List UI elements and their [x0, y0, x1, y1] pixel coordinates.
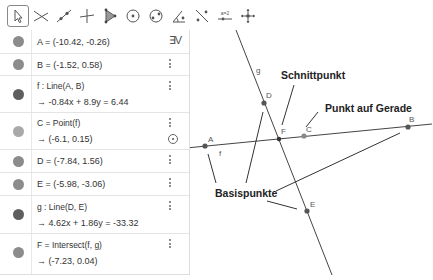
circle-three-points-icon: [147, 7, 165, 25]
algebra-row-A[interactable]: A = (-10.42, -0.26) ∃V: [0, 30, 189, 54]
svg-text:A: A: [208, 135, 214, 144]
polygon-icon: [101, 7, 119, 25]
callout-line-base-D: [246, 112, 263, 183]
more-vertical-icon: [169, 155, 173, 164]
row-divider: [31, 54, 32, 75]
row-divider: [31, 234, 32, 274]
definition-text[interactable]: F = Intersect(f, g): [37, 240, 102, 250]
point-A[interactable]: A: [202, 135, 214, 149]
angle-icon: [170, 7, 188, 25]
algebra-row-D[interactable]: D = (-7.84, 1.56): [0, 150, 189, 173]
line-tool-button[interactable]: [53, 5, 75, 27]
row-menu-button[interactable]: [169, 201, 173, 210]
svg-text:a=2: a=2: [221, 10, 230, 16]
visibility-toggle[interactable]: [13, 156, 24, 167]
perpendicular-line-icon: [78, 7, 96, 25]
algebra-row-g[interactable]: g : Line(D, E) → 4.62x + 1.86y = -33.32: [0, 196, 189, 234]
reflect-line-icon: [193, 7, 211, 25]
sort-icon[interactable]: ∃V: [169, 34, 181, 47]
line-g[interactable]: [236, 30, 332, 275]
circle-center-icon: [124, 7, 142, 25]
visibility-toggle[interactable]: [13, 247, 24, 258]
visibility-toggle[interactable]: [13, 126, 24, 137]
algebra-row-f[interactable]: f : Line(A, B) → -0.84x + 8.9y = 6.44: [0, 76, 189, 113]
more-vertical-icon: [169, 178, 173, 187]
more-vertical-icon: [169, 201, 173, 210]
slider-icon: a=2: [216, 7, 234, 25]
definition-text[interactable]: f : Line(A, B): [37, 81, 84, 91]
definition-text[interactable]: D = (-7.84, 1.56): [37, 156, 103, 166]
row-divider: [31, 30, 32, 53]
value-text: → (-7.23, 0.04): [37, 256, 98, 266]
point-E[interactable]: E: [304, 200, 315, 214]
algebra-row-F[interactable]: F = Intersect(f, g) → (-7.23, 0.04): [0, 234, 189, 274]
line-through-points-icon: [55, 7, 73, 25]
cursor-arrow-icon: [9, 7, 27, 25]
row-menu-button[interactable]: [169, 81, 173, 90]
intersect-lines-icon: [32, 7, 50, 25]
svg-text:F: F: [281, 127, 286, 136]
row-divider: [31, 150, 32, 172]
definition-text[interactable]: B = (-1.52, 0.58): [37, 60, 102, 70]
animation-play-icon[interactable]: [168, 134, 178, 144]
algebra-row-C[interactable]: C = Point(f) → (-6.1, 0.15): [0, 113, 189, 150]
polygon-tool-button[interactable]: [99, 5, 121, 27]
conic-tool-button[interactable]: [145, 5, 167, 27]
row-menu-button[interactable]: [169, 178, 173, 187]
graphics-view[interactable]: A B C D E F g f Schnittpunkt Punkt auf G…: [190, 30, 433, 280]
row-divider: [31, 196, 32, 233]
more-vertical-icon: [169, 59, 173, 68]
row-divider: [31, 173, 32, 195]
perpendicular-tool-button[interactable]: [76, 5, 98, 27]
reflect-tool-button[interactable]: [191, 5, 213, 27]
callout-line-base-A: [208, 154, 216, 183]
toolbar: a=2: [0, 0, 433, 30]
definition-text[interactable]: E = (-5.98, -3.06): [37, 179, 105, 189]
row-menu-button[interactable]: [169, 118, 173, 127]
line-g-label: g: [256, 66, 260, 75]
move-view-tool-button[interactable]: [237, 5, 259, 27]
callout-line-base-B: [276, 133, 400, 191]
svg-text:E: E: [310, 200, 315, 209]
slider-tool-button[interactable]: a=2: [214, 5, 236, 27]
move-tool-button[interactable]: [7, 5, 29, 27]
definition-text[interactable]: g : Line(D, E): [37, 202, 87, 212]
visibility-toggle[interactable]: [13, 89, 24, 100]
move-graphics-view-icon: [239, 7, 257, 25]
visibility-toggle[interactable]: [13, 36, 24, 47]
value-text: → (-6.1, 0.15): [37, 134, 93, 144]
visibility-toggle[interactable]: [13, 209, 24, 220]
row-menu-button[interactable]: [169, 155, 173, 164]
row-divider: [31, 113, 32, 149]
callout-point-on-line: Punkt auf Gerade: [325, 102, 412, 114]
point-tool-button[interactable]: [30, 5, 52, 27]
svg-text:D: D: [266, 91, 272, 100]
value-text: → 4.62x + 1.86y = -33.32: [37, 218, 139, 228]
more-vertical-icon: [169, 81, 173, 90]
row-menu-button[interactable]: [169, 239, 173, 248]
line-f-label: f: [219, 149, 222, 158]
definition-text[interactable]: C = Point(f): [37, 118, 80, 128]
callout-line-intersection: [282, 85, 294, 125]
algebra-row-E[interactable]: E = (-5.98, -3.06): [0, 173, 189, 196]
definition-text[interactable]: A = (-10.42, -0.26): [37, 37, 110, 47]
callout-base-points: Basispunkte: [215, 187, 278, 199]
visibility-toggle[interactable]: [13, 59, 24, 70]
svg-text:B: B: [409, 115, 414, 124]
callout-intersection: Schnittpunkt: [281, 69, 346, 81]
visibility-toggle[interactable]: [13, 179, 24, 190]
more-vertical-icon: [169, 239, 173, 248]
row-menu-button[interactable]: [169, 59, 173, 68]
row-divider: [31, 76, 32, 112]
callout-line-base-E: [267, 201, 297, 209]
value-text: → -0.84x + 8.9y = 6.44: [37, 97, 129, 107]
more-vertical-icon: [169, 118, 173, 127]
circle-tool-button[interactable]: [122, 5, 144, 27]
svg-text:C: C: [306, 125, 312, 134]
angle-tool-button[interactable]: [168, 5, 190, 27]
algebra-view: A = (-10.42, -0.26) ∃V B = (-1.52, 0.58)…: [0, 30, 190, 275]
algebra-row-B[interactable]: B = (-1.52, 0.58): [0, 54, 189, 76]
point-B[interactable]: B: [405, 115, 414, 130]
